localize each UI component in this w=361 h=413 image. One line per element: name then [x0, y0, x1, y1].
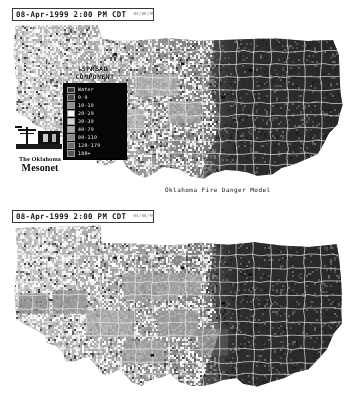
- legend-label: 80-119: [78, 135, 97, 140]
- legend-label: 120-179: [78, 143, 100, 148]
- logo-line-1: The Oklahoma: [10, 155, 70, 162]
- legend-label: Water: [78, 87, 94, 92]
- legend-title-line1: SPREAD: [63, 65, 127, 73]
- header-datetime-ignition: 08-Apr-1999 2:00 PM CDT: [16, 213, 126, 221]
- caption-spread: Oklahoma Fire Danger Model: [165, 186, 271, 193]
- legend-row: 120-179: [67, 142, 124, 149]
- legend-swatch: [67, 102, 75, 108]
- legend-swatch-list-spread: Water0-910-1920-2930-3940-7980-119120-17…: [63, 83, 127, 160]
- legend-spread-component: SPREAD COMPONENT Water0-910-1920-2930-39…: [63, 65, 127, 160]
- legend-row: 10-19: [67, 102, 124, 109]
- legend-label: 10-19: [78, 103, 94, 108]
- legend-row: Water: [67, 86, 124, 93]
- panel-spread-component: 08-Apr-1999 2:00 PM CDT 04/08/99 19 GMT …: [0, 8, 361, 203]
- legend-label: 40-79: [78, 127, 94, 132]
- legend-row: 40-79: [67, 126, 124, 133]
- logo-line-2: Mesonet: [10, 162, 70, 173]
- legend-title-line2: COMPONENT: [63, 73, 127, 81]
- weather-station-icon: [12, 125, 68, 155]
- legend-swatch: [67, 94, 75, 100]
- map-ignition-component: [12, 223, 350, 391]
- legend-label: 30-39: [78, 119, 94, 124]
- legend-label: 180+: [78, 151, 91, 156]
- legend-row: 0-9: [67, 94, 124, 101]
- legend-row: 180+: [67, 150, 124, 157]
- header-timestamp-ignition: 04/08/99 19 GMT: [133, 214, 154, 218]
- header-bar-ignition: 08-Apr-1999 2:00 PM CDT 04/08/99 19 GMT: [12, 210, 154, 223]
- legend-swatch: [67, 118, 75, 124]
- header-bar-spread: 08-Apr-1999 2:00 PM CDT 04/08/99 19 GMT: [12, 8, 154, 21]
- header-datetime-spread: 08-Apr-1999 2:00 PM CDT: [16, 11, 126, 19]
- legend-swatch: [67, 110, 75, 116]
- map-raster-ignition: [12, 223, 350, 391]
- legend-label: 20-29: [78, 111, 94, 116]
- legend-row: 20-29: [67, 110, 124, 117]
- panel-ignition-component: 08-Apr-1999 2:00 PM CDT 04/08/99 19 GMT …: [0, 210, 361, 410]
- legend-swatch: [67, 87, 75, 93]
- legend-row: 80-119: [67, 134, 124, 141]
- legend-row: 30-39: [67, 118, 124, 125]
- header-timestamp-spread: 04/08/99 19 GMT: [133, 12, 154, 16]
- document-page: 08-Apr-1999 2:00 PM CDT 04/08/99 19 GMT …: [0, 0, 361, 413]
- legend-label: 0-9: [78, 95, 88, 100]
- mesonet-logo-spread: The Oklahoma Mesonet: [10, 125, 70, 173]
